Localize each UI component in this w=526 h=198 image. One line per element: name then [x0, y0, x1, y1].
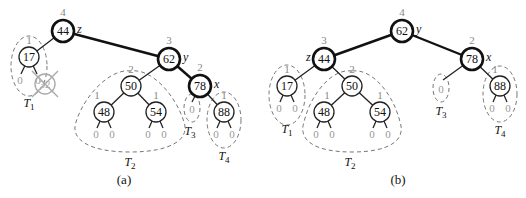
- leaf-label: 0: [213, 128, 219, 140]
- node-44: 44 3 z: [305, 34, 335, 70]
- leaf-label: 0: [145, 128, 151, 140]
- leaf-label: 0: [109, 128, 115, 140]
- svg-text:3: 3: [166, 34, 172, 46]
- leaf-label: 0: [438, 83, 444, 95]
- svg-text:78: 78: [194, 79, 206, 93]
- leaf-label: 0: [189, 103, 195, 115]
- svg-text:2: 2: [197, 61, 203, 73]
- svg-text:1: 1: [26, 34, 32, 46]
- leaf-label: 0: [229, 128, 235, 140]
- svg-text:4: 4: [399, 6, 405, 18]
- node-48: 48 1: [314, 89, 334, 122]
- svg-text:1: 1: [492, 63, 498, 75]
- svg-text:78: 78: [466, 52, 478, 66]
- svg-text:54: 54: [374, 105, 386, 119]
- svg-text:1: 1: [377, 89, 383, 101]
- svg-text:54: 54: [150, 105, 162, 119]
- node-54: 54 1: [370, 89, 390, 122]
- node-78: 78 2 x: [461, 34, 492, 70]
- leaf-label: 0: [276, 102, 282, 114]
- leaf-label: 0: [161, 128, 167, 140]
- node-62: 62 3 y: [158, 34, 189, 70]
- edge-62-44: [324, 31, 402, 59]
- svg-text:1: 1: [221, 89, 227, 101]
- svg-text:17: 17: [23, 50, 35, 64]
- svg-text:50: 50: [346, 79, 358, 93]
- svg-text:1: 1: [94, 89, 100, 101]
- leaf-label: 0: [292, 102, 298, 114]
- leaf-label: 0: [385, 128, 391, 140]
- avl-deletion-diagram: 0 0 0 0 0 0 0 0 0 32 44 4 z 17 1 62: [0, 0, 526, 198]
- leaf-label: 0: [17, 74, 23, 86]
- svg-text:z: z: [305, 50, 311, 64]
- svg-text:88: 88: [494, 79, 506, 93]
- leaf-label: 0: [329, 128, 335, 140]
- subtree-label-t3: T3: [184, 124, 196, 140]
- svg-text:2: 2: [469, 34, 475, 46]
- panel-b: 0 0 0 0 0 0 0 0 0 62 4 y 44 3 z 17 1 50 …: [269, 6, 517, 187]
- svg-text:88: 88: [218, 105, 230, 119]
- node-50: 50 2: [121, 63, 141, 96]
- svg-text:44: 44: [57, 24, 69, 38]
- subtree-label-t1: T1: [23, 96, 34, 112]
- svg-text:x: x: [485, 50, 492, 64]
- node-50: 50 2: [342, 63, 362, 96]
- svg-text:62: 62: [163, 52, 175, 66]
- svg-text:x: x: [213, 77, 220, 91]
- leaf-label: 0: [505, 102, 511, 114]
- svg-text:z: z: [76, 22, 82, 36]
- leaf-label: 0: [313, 128, 319, 140]
- svg-text:1: 1: [153, 89, 159, 101]
- svg-text:44: 44: [318, 52, 330, 66]
- svg-text:62: 62: [396, 24, 408, 38]
- leaf-label: 0: [93, 128, 99, 140]
- leaf-label: 0: [489, 102, 495, 114]
- subtree-label-t1: T1: [281, 122, 292, 138]
- svg-text:17: 17: [281, 79, 293, 93]
- svg-text:48: 48: [318, 105, 330, 119]
- subtree-label-t3: T3: [435, 104, 447, 120]
- node-48: 48 1: [94, 89, 114, 122]
- node-44: 44 4 z: [52, 6, 82, 42]
- svg-text:1: 1: [324, 89, 330, 101]
- subtree-label-t4: T4: [218, 149, 230, 165]
- subtree-label-t2: T2: [124, 155, 135, 171]
- node-78: 78 2 x: [189, 61, 220, 97]
- panel-a: 0 0 0 0 0 0 0 0 0 32 44 4 z 17 1 62: [11, 6, 241, 187]
- subtree-label-t2: T2: [344, 155, 355, 171]
- caption-b: (b): [390, 172, 405, 187]
- svg-text:48: 48: [98, 105, 110, 119]
- svg-text:50: 50: [125, 79, 137, 93]
- svg-text:1: 1: [284, 63, 290, 75]
- svg-text:2: 2: [349, 63, 355, 75]
- svg-text:y: y: [415, 22, 422, 36]
- leaf-label: 0: [369, 128, 375, 140]
- node-54: 54 1: [146, 89, 166, 122]
- svg-text:2: 2: [128, 63, 134, 75]
- svg-text:4: 4: [60, 6, 66, 18]
- caption-a: (a): [117, 172, 131, 187]
- svg-text:3: 3: [321, 34, 327, 46]
- svg-text:y: y: [182, 50, 189, 64]
- subtree-label-t4: T4: [494, 123, 506, 139]
